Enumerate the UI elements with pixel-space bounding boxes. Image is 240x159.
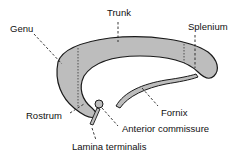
lamina-terminalis-leader	[92, 128, 96, 140]
anterior-commissure-leader	[102, 108, 118, 126]
anterior-commissure-shape	[95, 100, 103, 108]
label-anterior-commissure: Anterior commissure	[122, 124, 209, 134]
fornix-shape	[116, 74, 198, 108]
label-genu: Genu	[10, 24, 33, 34]
label-trunk: Trunk	[107, 8, 131, 18]
label-lamina-terminalis: Lamina terminalis	[72, 142, 146, 152]
label-rostrum: Rostrum	[26, 111, 62, 121]
genu-leader	[34, 34, 62, 64]
corpus-callosum-diagram: Genu Trunk Splenium Rostrum Fornix Anter…	[0, 0, 240, 159]
label-splenium: Splenium	[188, 22, 228, 32]
label-fornix: Fornix	[161, 108, 187, 118]
